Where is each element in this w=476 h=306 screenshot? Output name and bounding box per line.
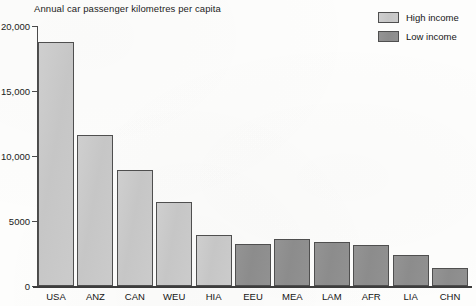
x-axis-label-lia: LIA (393, 291, 429, 302)
x-axis-label-afr: AFR (353, 291, 389, 302)
legend-item-low-income: Low income (378, 31, 459, 42)
legend-swatch-icon (378, 31, 399, 42)
x-axis-label-usa: USA (38, 291, 74, 302)
legend-label: Low income (406, 31, 457, 42)
x-axis-label-can: CAN (117, 291, 153, 302)
x-axis-label-chn: CHN (432, 291, 468, 302)
x-axis-label-weu: WEU (156, 291, 192, 302)
x-axis-category-labels: USAANZCANWEUHIAEEUMEALAMAFRLIACHN (0, 0, 476, 306)
bar-chart-figure: Annual car passenger kilometres per capi… (0, 0, 476, 306)
x-axis-label-anz: ANZ (77, 291, 113, 302)
x-axis-label-hia: HIA (196, 291, 232, 302)
chart-legend: High incomeLow income (378, 12, 459, 42)
legend-item-high-income: High income (378, 12, 459, 23)
legend-label: High income (406, 12, 459, 23)
legend-swatch-icon (378, 12, 399, 23)
x-axis-label-eeu: EEU (235, 291, 271, 302)
x-axis-label-mea: MEA (274, 291, 310, 302)
x-axis-label-lam: LAM (314, 291, 350, 302)
